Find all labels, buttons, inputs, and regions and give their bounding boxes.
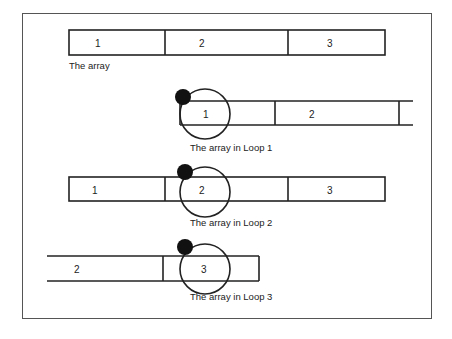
top-array-cell-2: 2 <box>199 38 205 49</box>
loop-1-caption: The array in Loop 1 <box>190 142 272 153</box>
loop-3-cell-3: 3 <box>201 264 207 275</box>
loop-1-array <box>180 89 413 139</box>
loop-1-cell-2: 2 <box>309 109 315 120</box>
loop-2-cell-1: 1 <box>92 185 98 196</box>
loop-1-cell-1: 1 <box>203 109 209 120</box>
loop-2-pointer-dot <box>177 164 193 180</box>
loop-3-caption: The array in Loop 3 <box>190 291 272 302</box>
top-array <box>69 30 385 55</box>
loop-2-array <box>69 167 385 217</box>
loop-2-caption: The array in Loop 2 <box>190 217 272 228</box>
loop-3-pointer-dot <box>177 239 193 255</box>
loop-1-pointer-dot <box>175 89 191 105</box>
array-loop-diagram: 1 2 3 The array 1 2 The array in Loop 1 … <box>0 0 452 339</box>
loop-3-cell-2: 2 <box>74 264 80 275</box>
loop-2-cell-2: 2 <box>199 185 205 196</box>
loop-2-cell-3: 3 <box>327 185 333 196</box>
top-array-caption: The array <box>69 60 110 71</box>
top-array-cell-1: 1 <box>95 38 101 49</box>
top-array-cell-3: 3 <box>327 38 333 49</box>
